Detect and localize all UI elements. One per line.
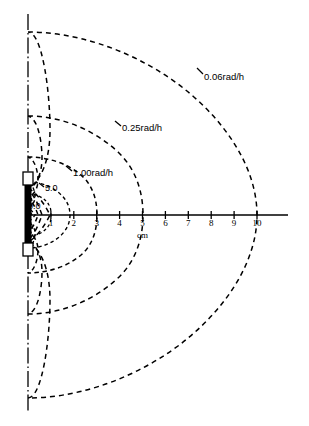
- source-end-cap-bottom: [23, 243, 33, 256]
- figure-root: 1 2 3 4 5 6 7 8 9 10 cm: [0, 0, 309, 426]
- dose-rate-contour-plot: 1 2 3 4 5 6 7 8 9 10 cm: [0, 0, 309, 426]
- x-tick-label-9: 9: [232, 218, 237, 228]
- source-end-cap-top: [23, 172, 33, 185]
- source-bar: [25, 174, 32, 253]
- x-tick-label-7: 7: [186, 218, 191, 228]
- contour-label-1.00: 1.00rad/h: [73, 167, 113, 178]
- x-tick-label-6: 6: [163, 218, 168, 228]
- contour-label-5.0: 5.0: [45, 183, 58, 193]
- x-tick-label-2: 2: [72, 218, 77, 228]
- x-tick-label-4: 4: [117, 218, 122, 228]
- linear-source: [23, 172, 33, 256]
- x-tick-label-8: 8: [209, 218, 214, 228]
- x-axis-unit-label: cm: [137, 230, 148, 240]
- contour-label-0.0: 0.0: [28, 201, 41, 211]
- contour-label-0.06: 0.06rad/h: [204, 71, 244, 82]
- contour-label-0.25: 0.25rad/h: [122, 122, 162, 133]
